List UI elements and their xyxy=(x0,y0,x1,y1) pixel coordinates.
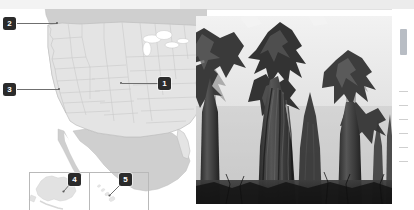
sliver-text-line-2 xyxy=(399,105,408,106)
right-cutoff-sliver xyxy=(392,9,414,210)
sliver-text-line-4 xyxy=(399,133,408,134)
sequoia-photo-graphic xyxy=(196,16,392,204)
map-marker-3[interactable]: 3 xyxy=(3,83,16,96)
top-header-strip-inner xyxy=(0,0,180,9)
us-map-panel: 2 3 1 4 5 xyxy=(0,9,207,210)
leader-dot-1 xyxy=(120,82,122,84)
sliver-accent-bar xyxy=(400,29,407,55)
sliver-text-line-6 xyxy=(399,161,408,162)
map-marker-4[interactable]: 4 xyxy=(68,173,81,186)
leader-line-2 xyxy=(17,23,57,24)
map-marker-5[interactable]: 5 xyxy=(119,173,132,186)
map-marker-1[interactable]: 1 xyxy=(158,77,171,90)
leader-line-1 xyxy=(122,83,159,84)
sliver-text-line-5 xyxy=(399,147,408,148)
figure-root: 2 3 1 4 5 xyxy=(0,0,414,210)
leader-dot-3 xyxy=(58,88,60,90)
leader-line-3 xyxy=(17,89,59,90)
leader-dot-2 xyxy=(56,22,58,24)
map-marker-2[interactable]: 2 xyxy=(3,17,16,30)
sliver-text-line-1 xyxy=(399,91,408,92)
sequoia-photograph xyxy=(196,16,392,204)
sliver-text-line-3 xyxy=(399,119,408,120)
